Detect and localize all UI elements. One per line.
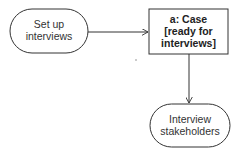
action-label-line-1: Set up xyxy=(34,18,65,30)
action-node-interview-stakeholders[interactable]: Interview stakeholders xyxy=(150,104,230,147)
action-label-line-1: Interview xyxy=(169,113,211,125)
object-label-line-1: a: Case xyxy=(170,13,208,25)
activity-diagram: Set up interviews a: Case [ready for int… xyxy=(0,0,242,158)
action-node-set-up-interviews[interactable]: Set up interviews xyxy=(10,9,88,53)
object-label-line-2: [ready for xyxy=(164,25,212,37)
action-label-line-2: stakeholders xyxy=(160,125,220,137)
object-node-case[interactable]: a: Case [ready for interviews] xyxy=(149,9,228,54)
action-label-line-2: interviews xyxy=(26,30,73,42)
stray-dot xyxy=(135,59,137,61)
object-label-line-3: interviews] xyxy=(161,37,216,49)
